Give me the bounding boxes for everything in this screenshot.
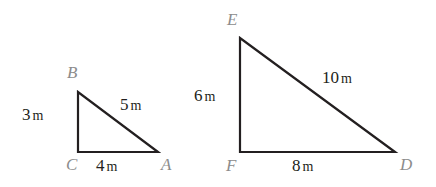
side-length-bc: 3m [22, 106, 43, 123]
side-length-bc-number: 3 [22, 105, 31, 124]
side-length-fd-number: 8 [292, 156, 301, 175]
triangle-def-shape [240, 38, 395, 152]
side-length-bc-unit: m [33, 108, 44, 123]
vertex-label-c: C [66, 156, 78, 173]
side-length-ca: 4m [96, 157, 117, 174]
vertex-label-b: B [67, 64, 78, 81]
vertex-label-d: D [400, 156, 412, 173]
side-length-ed-number: 10 [322, 68, 339, 87]
side-length-ba-number: 5 [120, 95, 129, 114]
vertex-label-e: E [227, 11, 238, 28]
side-length-ed-unit: m [341, 71, 352, 86]
side-length-ef: 6m [194, 87, 215, 104]
side-length-ca-unit: m [107, 159, 118, 174]
side-length-ba: 5m [120, 96, 141, 113]
vertex-label-a: A [161, 156, 172, 173]
vertex-label-f: F [226, 157, 237, 174]
side-length-ef-unit: m [205, 89, 216, 104]
triangle-abc-shape [78, 92, 158, 152]
side-length-ca-number: 4 [96, 156, 105, 175]
side-length-ed: 10m [322, 69, 352, 86]
side-length-ba-unit: m [131, 98, 142, 113]
side-length-fd: 8m [292, 157, 313, 174]
geometry-figure: B C A 3m 5m 4m E F D 6m 10m 8m [0, 0, 436, 187]
side-length-ef-number: 6 [194, 86, 203, 105]
side-length-fd-unit: m [303, 159, 314, 174]
